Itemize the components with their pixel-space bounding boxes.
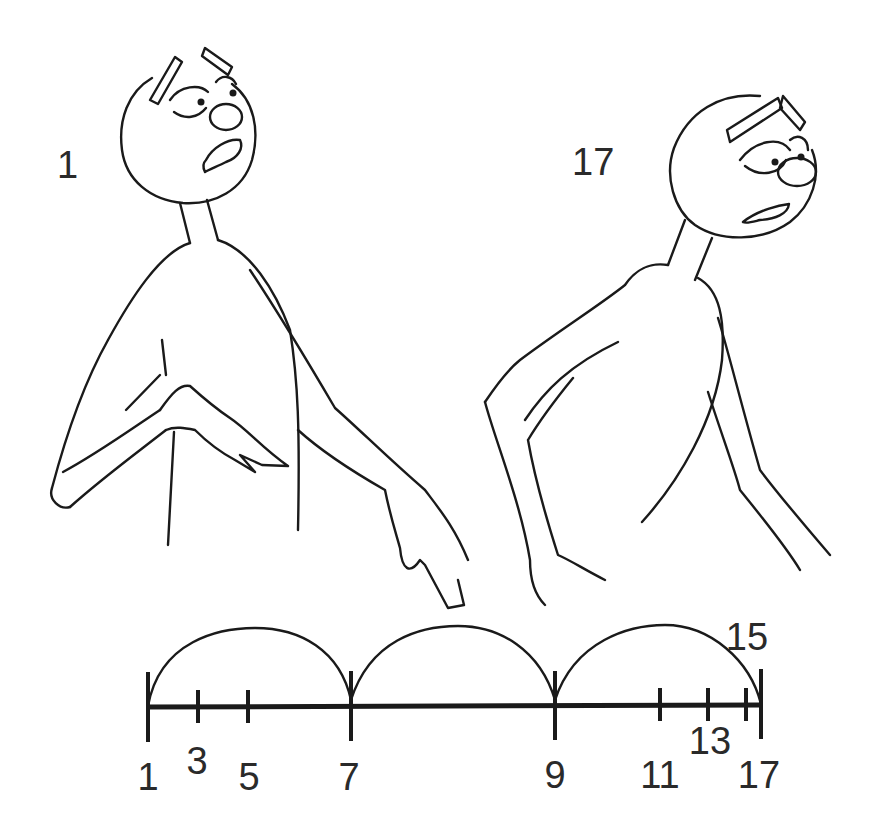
arm-right bbox=[250, 270, 468, 608]
chest-line bbox=[126, 340, 166, 410]
tick-label-15: 15 bbox=[726, 618, 768, 656]
left-pupil bbox=[198, 99, 205, 106]
tick-label-13: 13 bbox=[689, 722, 731, 760]
tick-label-9: 9 bbox=[544, 756, 565, 794]
tick-label-17: 17 bbox=[738, 756, 780, 794]
shoulder-left bbox=[485, 264, 668, 402]
left-brow-icon bbox=[727, 98, 782, 142]
mouth bbox=[203, 140, 241, 172]
right-pupil bbox=[230, 90, 237, 97]
nose bbox=[210, 104, 242, 130]
animation-spacing-chart: 1 17 bbox=[0, 0, 873, 835]
tick-label-11: 11 bbox=[640, 756, 679, 794]
tick-label-3: 3 bbox=[186, 742, 207, 780]
drawing-canvas bbox=[0, 0, 873, 835]
right-brow-icon bbox=[202, 48, 232, 75]
left-eye bbox=[740, 142, 790, 173]
mouth bbox=[743, 204, 789, 223]
forearm-left bbox=[63, 410, 166, 507]
left-pupil bbox=[772, 159, 779, 166]
character-frame-1 bbox=[51, 48, 468, 608]
spacing-timeline bbox=[146, 625, 762, 742]
neck bbox=[668, 220, 712, 280]
tick-label-1: 1 bbox=[137, 758, 158, 796]
arm-right bbox=[708, 318, 830, 570]
hand-at-chest bbox=[160, 386, 288, 472]
arc-7-to-9 bbox=[351, 626, 555, 700]
neck bbox=[180, 200, 218, 243]
character-frame-17 bbox=[485, 95, 830, 605]
nose bbox=[778, 158, 816, 186]
tick-label-5: 5 bbox=[238, 758, 259, 796]
tick-label-7: 7 bbox=[338, 758, 359, 796]
arm-left bbox=[485, 342, 618, 605]
left-brow-icon bbox=[150, 57, 182, 104]
right-eye bbox=[216, 77, 236, 84]
torso-center-line bbox=[168, 432, 174, 545]
right-brow-icon bbox=[780, 96, 805, 130]
right-eye bbox=[790, 137, 808, 150]
head-outline bbox=[670, 95, 816, 237]
timeline-bar bbox=[146, 705, 762, 707]
